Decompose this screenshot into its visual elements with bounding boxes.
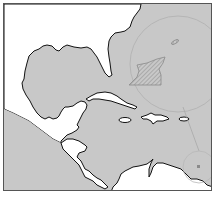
trinidad-marker bbox=[197, 165, 200, 168]
jamaica-island bbox=[119, 118, 131, 123]
map-frame bbox=[3, 3, 212, 191]
map-canvas bbox=[4, 4, 212, 191]
